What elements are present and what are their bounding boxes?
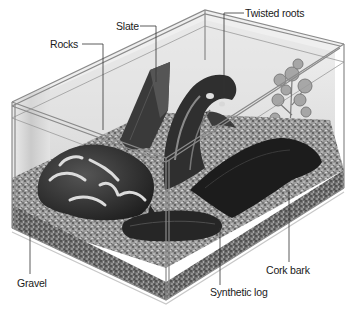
label-slate: Slate [116, 20, 139, 32]
aquarium-diagram: Slate Rocks Twisted roots Gravel Synthet… [0, 0, 360, 319]
label-rocks: Rocks [50, 38, 78, 50]
label-synthetic-log: Synthetic log [210, 286, 268, 298]
label-cork-bark: Cork bark [266, 264, 310, 276]
label-gravel: Gravel [17, 277, 47, 289]
label-twisted-roots: Twisted roots [245, 7, 304, 19]
